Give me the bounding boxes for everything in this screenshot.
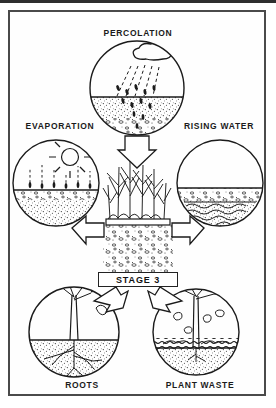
label-evaporation: EVAPORATION bbox=[14, 121, 106, 131]
figure-page: PERCOLATION EVAPORATION RISING WATER ROO… bbox=[0, 0, 276, 408]
panel-evaporation bbox=[10, 136, 105, 230]
label-rising-water: RISING WATER bbox=[172, 121, 266, 131]
label-stage-3: STAGE 3 bbox=[98, 272, 178, 287]
label-percolation: PERCOLATION bbox=[88, 28, 188, 38]
center-soil-column bbox=[103, 161, 173, 280]
arrow-percolation-to-column bbox=[118, 136, 156, 168]
crop-plants bbox=[103, 161, 171, 219]
arrow-roots-to-column bbox=[94, 287, 128, 312]
panel-rising-water bbox=[175, 140, 270, 230]
label-roots: ROOTS bbox=[36, 380, 128, 390]
label-plant-waste: PLANT WASTE bbox=[148, 380, 252, 390]
arrow-plant-waste-to-column bbox=[148, 287, 182, 312]
diagram-canvas bbox=[0, 0, 276, 408]
